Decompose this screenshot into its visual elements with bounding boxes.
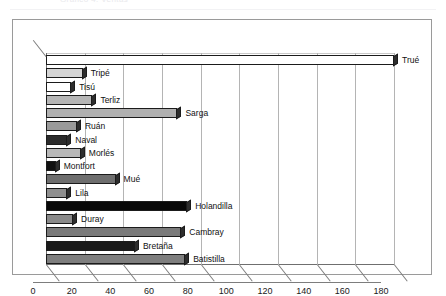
header-divider: [10, 9, 436, 10]
bar-end-cap: [72, 213, 77, 226]
bar-label-holandilla: Holandilla: [195, 202, 232, 211]
bar-body: [46, 174, 116, 184]
bar-end-cap: [186, 199, 191, 212]
bar-label-naval: Naval: [75, 136, 97, 145]
bar-tru-: [46, 55, 401, 65]
chart-frame: TruéTripéTisúTerlizSargaRuánNavalMorlésM…: [12, 19, 432, 275]
bar-label-batistilla: Batistilla: [193, 255, 225, 264]
bar-end-cap: [55, 160, 60, 173]
bar-body: [46, 82, 71, 92]
bar-label-tis-: Tisú: [79, 83, 95, 92]
bar-terliz: [46, 95, 99, 105]
floor-tick-80: [201, 264, 215, 281]
bar-morl-s: [46, 148, 88, 158]
bar-end-cap: [184, 252, 189, 265]
tick-label-80: 80: [173, 286, 203, 296]
bar-label-tru-: Trué: [402, 56, 419, 65]
gridline-140: [317, 53, 318, 265]
bar-end-cap: [115, 173, 120, 186]
tick-label-100: 100: [211, 286, 241, 296]
bar-body: [46, 214, 73, 224]
gridline-100: [239, 53, 240, 265]
tick-label-120: 120: [250, 286, 280, 296]
floor-tick-140: [317, 264, 331, 281]
floor-front-edge: [33, 282, 381, 283]
bar-label-sarga: Sarga: [185, 109, 208, 118]
bar-label-lila: Lila: [75, 189, 88, 198]
bar-end-cap: [66, 186, 71, 199]
bar-lila: [46, 188, 74, 198]
bar-sarga: [46, 108, 184, 118]
floor-tick-0: [46, 264, 60, 281]
bar-label-trip-: Tripé: [91, 69, 110, 78]
bar-naval: [46, 135, 74, 145]
gridline-160: [355, 53, 356, 265]
bar-label-duray: Duray: [81, 215, 104, 224]
bar-holandilla: [46, 201, 194, 211]
floor-tick-120: [278, 264, 292, 281]
gridline-180: [394, 53, 395, 265]
bar-label-montfort: Montfort: [64, 162, 95, 171]
bar-label-morl-s: Morlés: [89, 149, 115, 158]
bar-end-cap: [91, 93, 96, 106]
bar-label-terliz: Terliz: [100, 96, 120, 105]
bar-body: [46, 254, 185, 264]
bar-end-cap: [82, 67, 87, 80]
bar-end-cap: [176, 107, 181, 120]
bar-label-cambray: Cambray: [189, 228, 223, 237]
bar-body: [46, 241, 135, 251]
floor-tick-180: [394, 264, 408, 281]
tick-label-160: 160: [327, 286, 357, 296]
bar-end-cap: [70, 80, 75, 93]
bar-body: [46, 95, 92, 105]
bar-body: [46, 201, 187, 211]
left-riser-3d: [33, 40, 47, 57]
bar-cambray: [46, 227, 188, 237]
floor-tick-40: [123, 264, 137, 281]
bar-body: [46, 121, 77, 131]
floor-tick-20: [85, 264, 99, 281]
tick-label-20: 20: [57, 286, 87, 296]
bar-body: [46, 188, 67, 198]
bar-body: [46, 227, 181, 237]
tick-label-140: 140: [289, 286, 319, 296]
bar-end-cap: [134, 239, 139, 252]
tick-label-60: 60: [134, 286, 164, 296]
tick-label-0: 0: [18, 286, 48, 296]
bar-tis-: [46, 82, 78, 92]
back-wall-top-edge: [46, 53, 394, 54]
bar-end-cap: [80, 146, 85, 159]
bar-label-ru-n: Ruán: [85, 122, 105, 131]
bar-label-breta-a: Bretaña: [143, 242, 173, 251]
tick-label-180: 180: [366, 286, 396, 296]
bar-trip-: [46, 68, 90, 78]
bar-end-cap: [66, 133, 71, 146]
bar-breta-a: [46, 241, 142, 251]
bar-end-cap: [180, 226, 185, 239]
tick-label-40: 40: [95, 286, 125, 296]
bar-body: [46, 68, 83, 78]
page-header-fragment: Gráfico 4. Ventas: [60, 0, 220, 4]
bar-label-mu-: Mué: [124, 175, 141, 184]
bar-end-cap: [76, 120, 81, 133]
floor-tick-60: [162, 264, 176, 281]
floor-tick-160: [355, 264, 369, 281]
bar-body: [46, 148, 81, 158]
gridline-120: [278, 53, 279, 265]
bar-ru-n: [46, 121, 84, 131]
bar-montfort: [46, 161, 63, 171]
floor-tick-100: [239, 264, 253, 281]
bar-body: [46, 135, 67, 145]
bar-batistilla: [46, 254, 192, 264]
bar-mu-: [46, 174, 123, 184]
bar-body: [46, 108, 177, 118]
bar-duray: [46, 214, 80, 224]
bar-body: [46, 55, 394, 65]
bar-end-cap: [393, 54, 398, 67]
